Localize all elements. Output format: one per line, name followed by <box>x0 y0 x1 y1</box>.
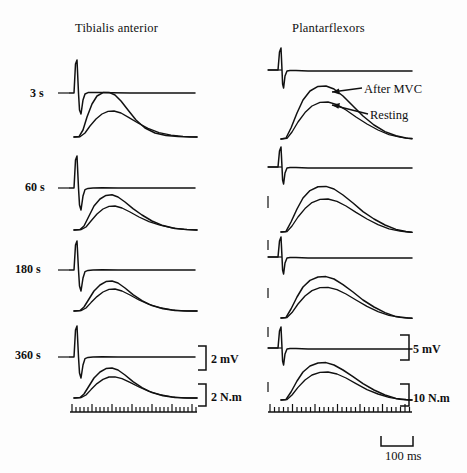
scale-bracket-2mv <box>198 346 206 370</box>
scale-bracket-10nm <box>400 384 409 406</box>
trace-group-left-60s <box>58 156 197 230</box>
torque-after-mvc-right-60s <box>281 186 412 232</box>
torque-resting-left-3s <box>74 111 197 137</box>
torque-after-mvc-left-3s <box>74 92 197 137</box>
figure-panel: Tibialis anterior Plantarflexors 3 s 60 … <box>0 0 467 473</box>
traces-canvas <box>0 0 467 473</box>
trace-group-left-3s <box>58 60 197 137</box>
trace-group-right-60s <box>268 147 412 250</box>
emg-trace-left-360s <box>70 326 195 378</box>
trace-group-left-180s <box>58 241 197 311</box>
emg-trace-left-3s <box>70 60 195 114</box>
trace-group-right-360s <box>268 327 412 400</box>
time-base-ruler-right <box>268 404 412 412</box>
torque-after-mvc-left-360s <box>74 368 197 398</box>
scale-bracket-5mv <box>400 335 409 360</box>
scale-bracket-2nm <box>198 384 206 406</box>
torque-resting-right-3s <box>281 102 412 139</box>
torque-after-mvc-left-180s <box>74 281 197 311</box>
emg-trace-right-60s <box>268 147 412 184</box>
torque-after-mvc-right-3s <box>281 86 412 139</box>
emg-trace-right-360s <box>268 327 412 365</box>
emg-trace-left-180s <box>70 241 195 291</box>
trace-group-right-3s <box>268 48 412 139</box>
torque-after-mvc-right-360s <box>281 363 412 400</box>
emg-trace-right-180s <box>268 237 412 274</box>
torque-after-mvc-right-180s <box>281 277 412 319</box>
emg-trace-right-3s <box>268 48 412 88</box>
torque-after-mvc-left-60s <box>74 195 197 230</box>
emg-trace-left-60s <box>70 156 195 210</box>
trace-group-right-180s <box>268 237 412 337</box>
trace-group-left-360s <box>58 326 197 398</box>
time-base-ruler-left <box>70 404 197 412</box>
arrow-after-mvc <box>332 88 362 94</box>
time-scale-bar <box>381 436 413 446</box>
